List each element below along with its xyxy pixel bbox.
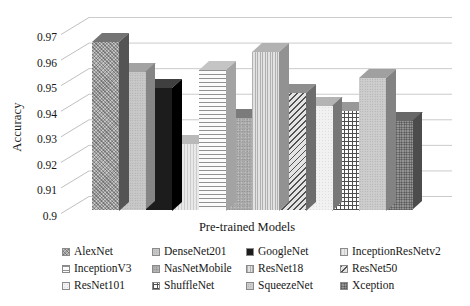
legend-item-ResNet50: ResNet50 [340, 262, 397, 275]
legend-marker-icon [246, 265, 254, 273]
legend-item-ResNet18: ResNet18 [246, 262, 303, 275]
legend-label: InceptionV3 [74, 262, 131, 274]
legend-marker-icon [246, 282, 254, 290]
legend-label: ResNet50 [352, 262, 397, 274]
legend-marker-pattern [63, 283, 69, 289]
legend-label: ShuffleNet [164, 279, 214, 291]
chart-figure: Accuracy 0.90.910.920.930.940.950.960.97… [0, 0, 470, 306]
legend-label: SqueezeNet [258, 279, 313, 291]
legend-item-AlexNet: AlexNet [62, 245, 113, 258]
legend-label: AlexNet [74, 245, 113, 257]
legend-marker-icon [62, 265, 70, 273]
legend-marker-icon [340, 248, 348, 256]
legend-marker-pattern [341, 249, 347, 255]
legend-label: GoogleNet [258, 245, 308, 257]
legend-marker-icon [246, 248, 254, 256]
legend-label: ResNet18 [258, 262, 303, 274]
legend-item-InceptionV3: InceptionV3 [62, 262, 131, 275]
legend-item-ResNet101: ResNet101 [62, 279, 125, 292]
legend-marker-pattern [153, 283, 159, 289]
legend-label: ResNet101 [74, 279, 125, 291]
legend-marker-pattern [63, 249, 69, 255]
legend-marker-icon [62, 282, 70, 290]
legend-marker-icon [340, 265, 348, 273]
legend-marker-pattern [247, 266, 253, 272]
legend-marker-icon [152, 248, 160, 256]
legend-marker-pattern [247, 283, 253, 289]
legend-item-GoogleNet: GoogleNet [246, 245, 308, 258]
legend-label: NasNetMobile [164, 262, 232, 274]
legend-label: Xception [352, 279, 394, 291]
legend-item-SqueezeNet: SqueezeNet [246, 279, 313, 292]
legend-item-NasNetMobile: NasNetMobile [152, 262, 232, 275]
legend-label: InceptionResNetv2 [352, 245, 441, 257]
legend-marker-pattern [341, 266, 347, 272]
legend-marker-pattern [341, 283, 347, 289]
legend-marker-pattern [63, 266, 69, 272]
legend-item-Xception: Xception [340, 279, 394, 292]
legend-item-DenseNet201: DenseNet201 [152, 245, 227, 258]
legend-item-ShuffleNet: ShuffleNet [152, 279, 214, 292]
legend-item-InceptionResNetv2: InceptionResNetv2 [340, 245, 441, 258]
legend-marker-icon [340, 282, 348, 290]
legend-label: DenseNet201 [164, 245, 227, 257]
legend-marker-icon [152, 265, 160, 273]
legend-marker-pattern [153, 249, 159, 255]
legend-marker-icon [152, 282, 160, 290]
legend-marker-icon [62, 248, 70, 256]
legend-marker-pattern [247, 249, 253, 255]
legend: AlexNetDenseNet201GoogleNetInceptionResN… [0, 0, 470, 306]
legend-marker-pattern [153, 266, 159, 272]
